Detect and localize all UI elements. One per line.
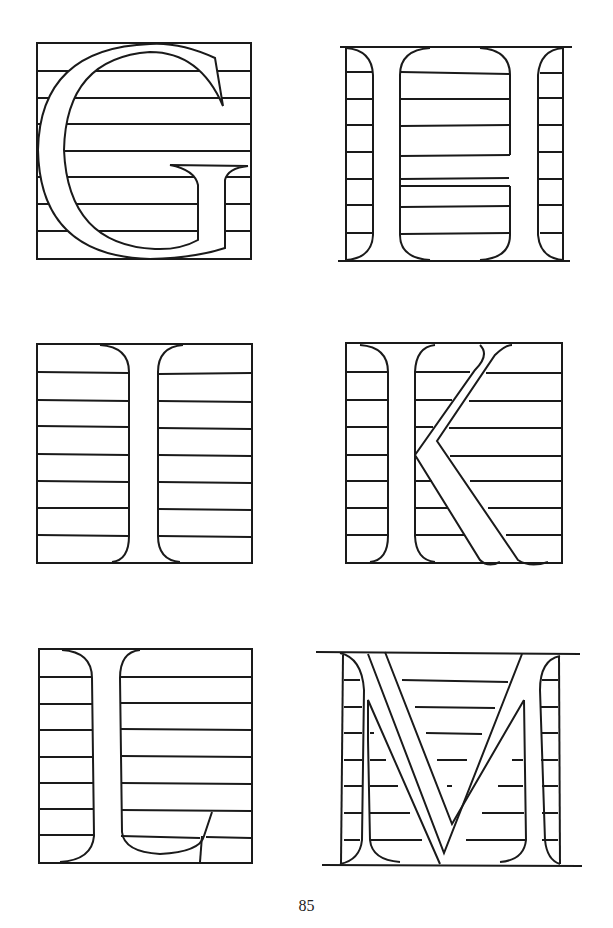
letter-panel-g bbox=[30, 38, 260, 268]
letter-k-drawing bbox=[340, 338, 570, 568]
letter-g-drawing bbox=[30, 38, 260, 268]
letter-panel-h bbox=[335, 40, 575, 265]
letter-h-drawing bbox=[335, 40, 575, 265]
letter-l-drawing bbox=[30, 640, 260, 870]
letter-i-drawing bbox=[30, 338, 260, 568]
letter-panel-l bbox=[30, 640, 260, 870]
letter-m-drawing bbox=[312, 645, 587, 870]
page-number: 85 bbox=[0, 897, 613, 915]
letter-panel-k bbox=[340, 338, 570, 568]
letter-panel-m bbox=[312, 645, 587, 870]
letter-panel-i bbox=[30, 338, 260, 568]
